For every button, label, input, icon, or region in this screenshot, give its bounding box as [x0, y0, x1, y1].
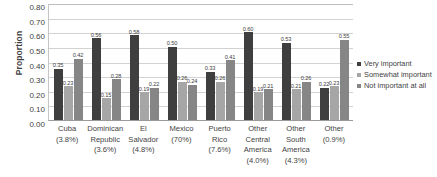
x-axis-label-name: Puerto Rico: [208, 124, 230, 144]
bar-value-label: 0.23: [63, 80, 74, 86]
bar-wrapper: 0.22: [320, 4, 329, 120]
bar-group: 0.560.150.28: [87, 4, 125, 120]
y-axis-tick-label: 0.80: [17, 3, 45, 12]
chart-legend: Very importantSomewhat importantNot impo…: [357, 58, 437, 91]
legend-label: Not important at all: [364, 81, 426, 90]
x-axis-label-name: Other South America: [282, 124, 310, 154]
x-axis-label: Other Central America(4.0%): [239, 124, 277, 166]
y-axis-tick-label: 0.70: [17, 17, 45, 26]
bar[interactable]: [112, 79, 121, 120]
bar-value-label: 0.23: [329, 80, 340, 86]
bar-value-label: 0.28: [111, 73, 122, 79]
x-axis-label: Puerto Rico(7.6%): [201, 124, 239, 166]
bar[interactable]: [216, 82, 225, 120]
bar-wrapper: 0.23: [330, 4, 339, 120]
legend-item[interactable]: Very important: [357, 58, 437, 69]
bar[interactable]: [330, 86, 339, 120]
bar-value-label: 0.35: [53, 62, 64, 68]
bar[interactable]: [254, 92, 263, 120]
bar-wrapper: 0.24: [188, 4, 197, 120]
y-axis-tick-labels: 0.800.700.600.500.400.300.200.100.00: [17, 3, 45, 121]
bar-value-label: 0.56: [91, 32, 102, 38]
bar-value-label: 0.26: [177, 75, 188, 81]
bar-value-label: 0.42: [73, 52, 84, 58]
bar[interactable]: [302, 82, 311, 120]
bar-wrapper: 0.19: [254, 4, 263, 120]
x-axis-label: Mexico(70%): [162, 124, 200, 166]
bar-value-label: 0.50: [167, 40, 178, 46]
bar-wrapper: 0.55: [340, 4, 349, 120]
plot-area: 0.350.230.420.560.150.280.580.190.220.50…: [48, 4, 353, 121]
bar[interactable]: [168, 47, 177, 120]
bar-value-label: 0.60: [243, 26, 254, 32]
y-axis-tick-label: 0.40: [17, 61, 45, 70]
x-axis-label-name: Other: [324, 124, 343, 133]
bar[interactable]: [340, 40, 349, 120]
x-axis-label: Dominican Republic(3.6%): [86, 124, 124, 166]
bar-wrapper: 0.58: [130, 4, 139, 120]
x-axis-label-name: Other Central America: [244, 124, 272, 154]
legend-item[interactable]: Not important at all: [357, 80, 437, 91]
x-axis-label: Other South America(4.3%): [277, 124, 315, 166]
x-axis-label-name: El Salvador: [128, 124, 158, 144]
x-axis-label-percent: (70%): [163, 135, 199, 146]
bar-wrapper: 0.23: [64, 4, 73, 120]
bar-wrapper: 0.35: [54, 4, 63, 120]
bar[interactable]: [206, 72, 215, 120]
bar[interactable]: [92, 38, 101, 120]
bars-layer: 0.350.230.420.560.150.280.580.190.220.50…: [49, 4, 353, 120]
bar[interactable]: [264, 89, 273, 120]
x-axis-label-name: Cuba: [58, 124, 76, 133]
bar-wrapper: 0.21: [264, 4, 273, 120]
bar-wrapper: 0.56: [92, 4, 101, 120]
bar-group: 0.600.190.21: [239, 4, 277, 120]
x-axis-label: Cuba(3.8%): [48, 124, 86, 166]
bar-value-label: 0.22: [319, 81, 330, 87]
bar[interactable]: [244, 32, 253, 120]
bar-wrapper: 0.60: [244, 4, 253, 120]
bar[interactable]: [292, 89, 301, 120]
bar-value-label: 0.19: [139, 86, 150, 92]
legend-item[interactable]: Somewhat important: [357, 69, 437, 80]
x-axis-label: El Salvador(4.8%): [124, 124, 162, 166]
bar-value-label: 0.58: [129, 29, 140, 35]
bar-value-label: 0.19: [253, 86, 264, 92]
bar-value-label: 0.53: [281, 36, 292, 42]
bar[interactable]: [226, 60, 235, 120]
bar-wrapper: 0.19: [140, 4, 149, 120]
bar[interactable]: [188, 85, 197, 120]
bar-group: 0.500.260.24: [163, 4, 201, 120]
bar-wrapper: 0.15: [102, 4, 111, 120]
bar[interactable]: [74, 59, 83, 120]
bar[interactable]: [102, 98, 111, 120]
bar-group: 0.580.190.22: [125, 4, 163, 120]
legend-swatch-icon: [357, 62, 361, 66]
bar-wrapper: 0.26: [302, 4, 311, 120]
bar-wrapper: 0.42: [74, 4, 83, 120]
bar[interactable]: [282, 43, 291, 121]
bar[interactable]: [178, 82, 187, 120]
bar-wrapper: 0.26: [178, 4, 187, 120]
bar[interactable]: [54, 69, 63, 120]
bar-wrapper: 0.26: [216, 4, 225, 120]
bar-value-label: 0.21: [263, 83, 274, 89]
bar-group: 0.220.230.55: [315, 4, 353, 120]
x-axis-label-name: Mexico: [169, 124, 193, 133]
bar-group: 0.350.230.42: [49, 4, 87, 120]
y-axis-tick-label: 0.30: [17, 76, 45, 85]
bar[interactable]: [64, 86, 73, 120]
bar-wrapper: 0.50: [168, 4, 177, 120]
y-axis-tick-label: 0.20: [17, 90, 45, 99]
x-axis-label-percent: (7.6%): [202, 145, 238, 156]
bar-chart: Proportion 0.800.700.600.500.400.300.200…: [0, 0, 437, 177]
bar[interactable]: [320, 88, 329, 120]
legend-label: Very important: [364, 59, 412, 68]
bar[interactable]: [140, 92, 149, 120]
legend-label: Somewhat important: [364, 70, 432, 79]
bar[interactable]: [150, 88, 159, 120]
bar[interactable]: [130, 35, 139, 120]
bar-group: 0.530.210.26: [277, 4, 315, 120]
bar-value-label: 0.26: [301, 75, 312, 81]
y-axis-tick-label: 0.60: [17, 32, 45, 41]
x-axis-category-labels: Cuba(3.8%)Dominican Republic(3.6%)El Sal…: [48, 124, 353, 166]
